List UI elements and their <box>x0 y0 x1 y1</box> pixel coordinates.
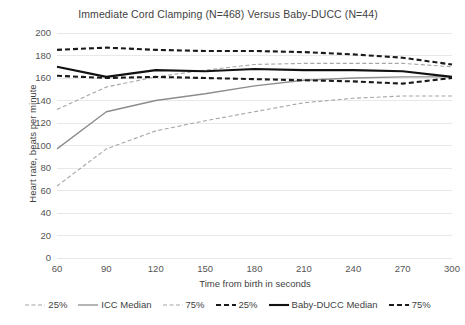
y-tick-label: 60 <box>17 186 51 196</box>
legend-label: 25% <box>239 299 258 310</box>
legend-label: 75% <box>186 299 205 310</box>
legend-item[interactable]: Baby-DUCC Median <box>269 299 378 310</box>
legend-label: Baby-DUCC Median <box>292 299 378 310</box>
legend-label: 75% <box>412 299 431 310</box>
legend-label: ICC Median <box>101 299 151 310</box>
legend-item[interactable]: 25% <box>216 299 258 310</box>
legend-swatch-line-icon <box>163 301 183 309</box>
y-tick-label: 180 <box>17 51 51 61</box>
y-tick-label: 160 <box>17 73 51 83</box>
legend-label: 25% <box>48 299 67 310</box>
y-tick-label: 0 <box>17 253 51 263</box>
x-tick-label: 240 <box>333 264 373 274</box>
y-tick-label: 80 <box>17 163 51 173</box>
y-tick-label: 20 <box>17 231 51 241</box>
legend-swatch-line-icon <box>389 301 409 309</box>
x-tick-label: 150 <box>185 264 225 274</box>
x-tick-label: 90 <box>86 264 126 274</box>
series-line-4 <box>57 67 452 77</box>
series-line-1 <box>57 77 452 149</box>
legend-swatch-line-icon <box>216 301 236 309</box>
x-tick-label: 120 <box>136 264 176 274</box>
legend-item[interactable]: 75% <box>389 299 431 310</box>
y-tick-label: 40 <box>17 208 51 218</box>
legend-swatch-line-icon <box>25 301 45 309</box>
series-lines <box>57 48 452 186</box>
legend-swatch-line-icon <box>78 301 98 309</box>
legend-item[interactable]: 75% <box>163 299 205 310</box>
x-tick-label: 300 <box>432 264 465 274</box>
y-tick-label: 120 <box>17 118 51 128</box>
y-tick-label: 100 <box>17 141 51 151</box>
legend-item[interactable]: ICC Median <box>78 299 151 310</box>
chart-legend: 25%ICC Median75%25%Baby-DUCC Median75% <box>0 299 456 310</box>
legend-item[interactable]: 25% <box>25 299 67 310</box>
y-tick-label: 140 <box>17 96 51 106</box>
legend-swatch-line-icon <box>269 301 289 309</box>
y-tick-label: 200 <box>17 28 51 38</box>
series-line-5 <box>57 48 452 65</box>
x-tick-label: 180 <box>235 264 275 274</box>
x-tick-label: 210 <box>284 264 324 274</box>
x-tick-label: 60 <box>37 264 77 274</box>
x-tick-label: 270 <box>383 264 423 274</box>
